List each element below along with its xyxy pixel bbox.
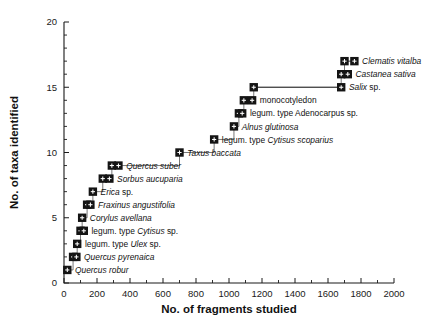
- y-tick-label: 20: [46, 16, 57, 27]
- x-tick-label: 1400: [284, 288, 305, 299]
- x-tick-label: 1800: [350, 288, 371, 299]
- point-label: Corylus avellana: [90, 213, 152, 223]
- point-annotation-labels: Quercus roburQuercus pyrenaicalegum. typ…: [75, 56, 422, 275]
- label-anchor-marker: [72, 253, 80, 261]
- label-anchor-marker: [238, 109, 246, 117]
- data-marker: [89, 187, 97, 195]
- y-axis-tick-labels: 05101520: [46, 16, 57, 288]
- data-marker: [340, 57, 348, 65]
- x-tick-label: 400: [122, 288, 138, 299]
- y-axis-title: No. of taxa identified: [8, 96, 20, 209]
- data-marker: [210, 135, 218, 143]
- chart-canvas: 0200400600800100012001400160018002000 05…: [0, 0, 433, 324]
- x-axis-title: No. of fragments studied: [161, 303, 296, 315]
- label-anchor-marker: [105, 174, 113, 182]
- x-axis-tick-labels: 0200400600800100012001400160018002000: [61, 288, 404, 299]
- point-label: Taxus baccata: [187, 148, 241, 158]
- point-label: Clematis vitalba: [362, 56, 421, 66]
- data-marker: [63, 266, 71, 274]
- x-tick-label: 200: [89, 288, 105, 299]
- point-label: Quercus pyrenaica: [84, 252, 155, 262]
- point-label: Erica sp.: [101, 187, 134, 197]
- label-anchor-marker: [114, 161, 122, 169]
- label-anchor-marker: [344, 70, 352, 78]
- y-axis-ticks: [64, 22, 69, 283]
- data-marker: [175, 148, 183, 156]
- data-marker: [240, 96, 248, 104]
- y-tick-label: 10: [46, 147, 57, 158]
- label-anchor-marker: [350, 57, 358, 65]
- point-label: monocotyledon: [260, 95, 317, 105]
- label-anchor-marker: [337, 83, 345, 91]
- label-anchor-marker: [86, 201, 94, 209]
- x-tick-label: 1000: [218, 288, 239, 299]
- x-axis-ticks: [64, 278, 394, 283]
- x-tick-label: 1600: [317, 288, 338, 299]
- point-label: legum. type Cytisus scoparius: [222, 135, 334, 145]
- x-tick-label: 2000: [383, 288, 404, 299]
- point-label: Sorbus aucuparia: [117, 174, 183, 184]
- x-tick-label: 600: [155, 288, 171, 299]
- label-anchor-marker: [80, 227, 88, 235]
- x-tick-label: 1200: [251, 288, 272, 299]
- y-tick-label: 5: [52, 212, 57, 223]
- point-label: Quercus robur: [75, 265, 130, 275]
- point-label: Alnus glutinosa: [241, 122, 299, 132]
- point-label: legum. type Adenocarpus sp.: [250, 108, 358, 118]
- point-label: Quercus suber: [126, 161, 182, 171]
- label-anchor-marker: [248, 96, 256, 104]
- data-marker: [78, 214, 86, 222]
- y-tick-label: 15: [46, 82, 57, 93]
- x-tick-label: 800: [188, 288, 204, 299]
- data-marker: [250, 83, 258, 91]
- data-marker: [73, 240, 81, 248]
- point-label: Salix sp.: [349, 82, 381, 92]
- point-label: legum. type Ulex sp.: [85, 239, 161, 249]
- data-marker: [230, 122, 238, 130]
- y-tick-label: 0: [52, 277, 57, 288]
- point-label: Castanea sativa: [356, 69, 416, 79]
- point-label: legum. type Cytisus sp.: [92, 226, 179, 236]
- x-tick-label: 0: [61, 288, 66, 299]
- point-label: Fraxinus angustifolia: [98, 200, 175, 210]
- species-accumulation-chart: 0200400600800100012001400160018002000 05…: [0, 0, 433, 324]
